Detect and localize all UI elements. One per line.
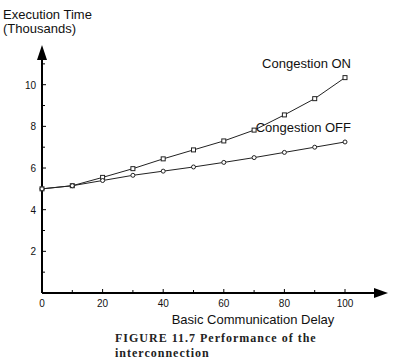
data-point-congestion-off: [252, 156, 256, 160]
data-point-congestion-off: [40, 187, 44, 191]
x-tick-label: 0: [39, 298, 45, 309]
figure-caption: FIGURE 11.7 Performance of the interconn…: [115, 331, 403, 361]
data-point-congestion-off: [101, 179, 105, 183]
data-point-congestion-off: [192, 165, 196, 169]
y-tick-label: 8: [30, 121, 36, 132]
y-axis-arrow-icon: [37, 45, 47, 60]
data-point-congestion-on: [161, 157, 165, 161]
x-tick-label: 60: [218, 298, 230, 309]
ticks: [42, 64, 345, 293]
series-label-congestion-off: Congestion OFF: [256, 120, 351, 135]
data-point-congestion-off: [313, 145, 317, 149]
y-tick-label: 10: [25, 80, 37, 91]
data-point-congestion-off: [70, 184, 74, 188]
labels: 020406080100246810Basic Communication De…: [25, 56, 354, 327]
x-tick-label: 20: [97, 298, 109, 309]
data-point-congestion-on: [192, 148, 196, 152]
x-axis-arrow-icon: [374, 288, 388, 298]
axes: [37, 45, 388, 298]
data-point-congestion-on: [131, 167, 135, 171]
x-tick-label: 100: [337, 298, 354, 309]
data-point-congestion-off: [282, 150, 286, 154]
x-tick-label: 80: [279, 298, 291, 309]
series-label-congestion-on: Congestion ON: [262, 56, 351, 71]
x-axis-label: Basic Communication Delay: [172, 312, 335, 327]
x-tick-label: 40: [158, 298, 170, 309]
data-point-congestion-on: [222, 139, 226, 143]
data-point-congestion-off: [161, 169, 165, 173]
data-point-congestion-off: [131, 173, 135, 177]
y-tick-label: 2: [30, 246, 36, 257]
y-tick-label: 6: [30, 163, 36, 174]
data-point-congestion-off: [343, 140, 347, 144]
data-point-congestion-off: [222, 160, 226, 164]
data-point-congestion-on: [343, 76, 347, 80]
data-point-congestion-on: [282, 113, 286, 117]
data-point-congestion-on: [313, 97, 317, 101]
y-tick-label: 4: [30, 205, 36, 216]
